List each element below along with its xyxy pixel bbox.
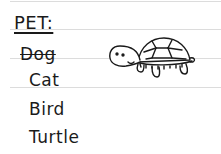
ruled-line	[10, 1, 221, 2]
list-item-cat: Cat	[29, 72, 59, 89]
turtle-icon	[108, 34, 196, 80]
list-item-bird: Bird	[29, 101, 65, 118]
list-item-dog: Dog	[20, 46, 56, 63]
list-item-turtle: Turtle	[29, 129, 79, 146]
list-heading: PET:	[14, 14, 53, 32]
